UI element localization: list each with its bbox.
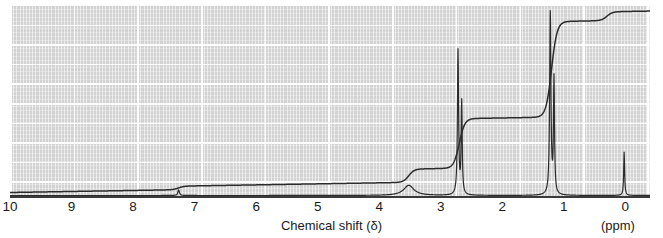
spectrum-plot-svg — [10, 5, 650, 196]
x-tick-6: 6 — [252, 199, 260, 215]
nmr-spectrum-figure: 109876543210 Chemical shift (δ) (ppm) — [0, 0, 663, 238]
x-axis-title: Chemical shift (δ) — [0, 218, 663, 233]
x-tick-8: 8 — [129, 199, 137, 215]
x-tick-4: 4 — [375, 199, 383, 215]
x-tick-9: 9 — [68, 199, 76, 215]
x-tick-0: 0 — [622, 199, 630, 215]
plot-area — [10, 5, 650, 196]
x-axis-unit-label: (ppm) — [601, 218, 635, 233]
x-tick-10: 10 — [2, 199, 17, 215]
spectrum-trace — [10, 11, 650, 196]
x-axis-line — [10, 196, 650, 198]
x-tick-7: 7 — [191, 199, 199, 215]
x-tick-3: 3 — [437, 199, 445, 215]
x-tick-1: 1 — [560, 199, 568, 215]
x-tick-5: 5 — [314, 199, 322, 215]
x-tick-2: 2 — [499, 199, 507, 215]
x-axis-tick-labels: 109876543210 — [0, 199, 663, 217]
